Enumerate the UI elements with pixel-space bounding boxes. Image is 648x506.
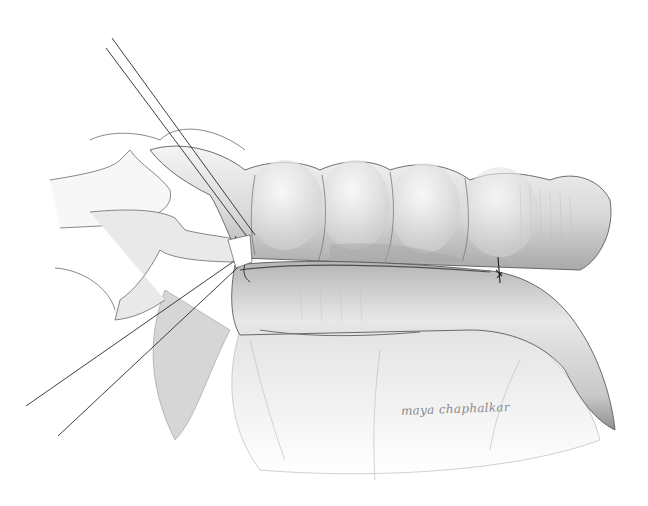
bowel-loop-left [153, 290, 230, 440]
medical-illustration [0, 0, 648, 506]
